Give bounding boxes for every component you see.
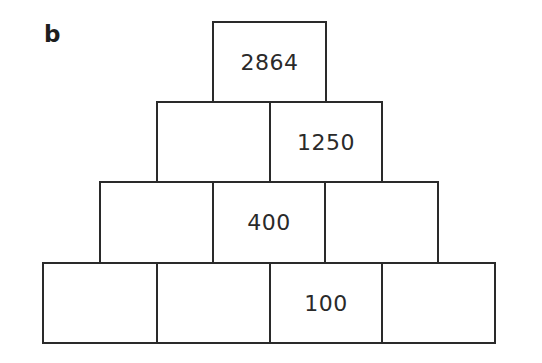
pyramid-cell-r4-c2	[156, 262, 271, 344]
pyramid-cell-r4-c4	[381, 262, 496, 344]
pyramid-cell-r4-c1	[42, 262, 158, 344]
pyramid-cell-r2-c1	[156, 101, 271, 183]
pyramid-cell-r3-c3	[324, 181, 439, 264]
pyramid-cell-r4-c3: 100	[269, 262, 383, 344]
pyramid-cell-r1-c1: 2864	[212, 21, 327, 103]
pyramid-cell-r3-c2: 400	[212, 181, 326, 264]
pyramid-cell-r2-c2: 1250	[269, 101, 383, 183]
part-label: b	[44, 21, 60, 47]
pyramid-cell-r3-c1	[99, 181, 214, 264]
